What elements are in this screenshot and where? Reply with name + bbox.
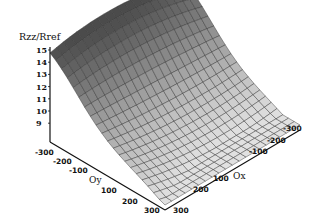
z-tick-label: 13 — [36, 69, 48, 79]
z-tick-label: 10 — [36, 106, 48, 116]
oy-axis-title: Oy — [89, 175, 102, 185]
z-tick-label: 9 — [36, 118, 42, 128]
surface-chart: Rzz/Rref 1514131211109 -300-200-10010020… — [0, 0, 315, 224]
z-axis-title: Rzz/Rref — [19, 31, 62, 42]
ox-axis-title: Ox — [233, 171, 245, 181]
oy-tick-label: -200 — [53, 157, 72, 166]
oy-tick-label: 300 — [144, 206, 160, 215]
z-tick-label: 15 — [36, 45, 47, 55]
z-tick-labels: 1514131211109 — [36, 45, 50, 128]
oy-tick-label: -100 — [69, 166, 88, 175]
ox-tick-label: 100 — [213, 174, 229, 183]
z-tick-label: 12 — [36, 82, 47, 92]
oy-tick-label: 100 — [101, 186, 117, 195]
z-tick-label: 11 — [36, 94, 47, 104]
ox-tick-label: 300 — [173, 206, 189, 215]
ox-tick-label: -100 — [249, 147, 268, 156]
z-tick-label: 14 — [36, 57, 48, 67]
ox-tick-label: -200 — [267, 136, 286, 145]
oy-tick-label: -300 — [35, 148, 54, 157]
oy-tick-label: 200 — [122, 197, 138, 206]
ox-tick-label: -300 — [283, 124, 302, 133]
ox-tick-label: 200 — [193, 185, 209, 194]
